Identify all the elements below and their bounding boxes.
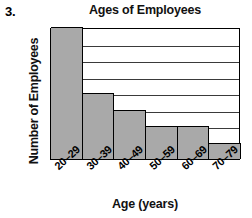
plot-area xyxy=(50,28,240,160)
chart-title: Ages of Employees xyxy=(50,3,240,17)
y-axis-title: Number of Employees xyxy=(27,25,41,177)
x-axis-title: Age (years) xyxy=(50,197,240,211)
bars-layer xyxy=(51,29,239,159)
histogram-figure: 3. Ages of Employees Number of Employees… xyxy=(0,0,252,218)
bar xyxy=(51,27,83,159)
problem-number-label: 3. xyxy=(5,4,15,19)
